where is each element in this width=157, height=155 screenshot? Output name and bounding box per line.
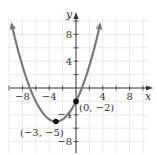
x-tick-label: −4 xyxy=(42,91,57,102)
parabola-chart: −8−44884−4−8 x y (−3, −5)(0, −2) xyxy=(0,0,157,155)
y-tick-label: 8 xyxy=(66,29,72,40)
y-axis-label: y xyxy=(65,8,73,21)
y-tick-label: −8 xyxy=(57,136,72,147)
curve-arrow-icon xyxy=(96,22,102,30)
y-axis-arrow-icon xyxy=(74,12,79,19)
vertex-label: (−3, −5) xyxy=(20,127,64,138)
x-axis-label: x xyxy=(145,90,152,103)
x-tick-label: 4 xyxy=(100,91,106,102)
y-intercept-label: (0, −2) xyxy=(79,102,114,113)
x-tick-label: −8 xyxy=(15,91,30,102)
x-tick-label: 8 xyxy=(126,91,132,102)
y-tick-label: 4 xyxy=(66,56,72,67)
curve-arrow-icon xyxy=(10,22,16,30)
point-marker xyxy=(53,119,59,125)
point-marker xyxy=(73,99,79,105)
